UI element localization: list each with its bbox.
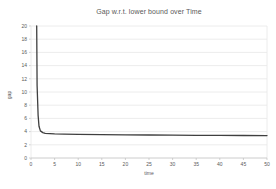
y-tick-label: 2 [24,142,27,148]
y-tick-label: 0 [24,155,27,161]
x-tick-label: 25 [146,161,152,167]
x-tick-label: 30 [170,161,176,167]
x-tick-label: 5 [53,161,56,167]
y-tick-label: 20 [21,23,27,29]
y-tick-label: 8 [24,102,27,108]
series-line-gap [37,26,267,136]
y-tick-label: 4 [24,128,27,134]
y-tick-label: 14 [21,62,27,68]
y-tick-label: 10 [21,89,27,95]
x-tick-label: 40 [217,161,223,167]
x-tick-label: 35 [193,161,199,167]
y-tick-label: 18 [21,36,27,42]
x-tick-label: 0 [30,161,33,167]
chart: Gap w.r.t. lower bound over Time gap 024… [0,0,276,189]
x-tick-label: 10 [75,161,81,167]
x-tick-label: 15 [99,161,105,167]
x-tick-label: 50 [264,161,270,167]
y-tick-label: 12 [21,76,27,82]
plot-area: 0246810121416182005101520253035404550 [0,0,276,189]
x-axis-label: time [31,170,267,176]
y-tick-label: 6 [24,115,27,121]
y-tick-label: 16 [21,49,27,55]
x-tick-label: 45 [241,161,247,167]
x-tick-label: 20 [123,161,129,167]
